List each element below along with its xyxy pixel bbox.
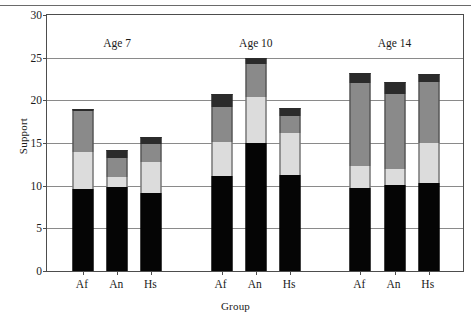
- plot-area: 051015202530Age 7Age 10Age 14: [46, 14, 464, 272]
- y-axis-tick-label: 0: [36, 265, 42, 277]
- x-axis-category-label: Af: [215, 278, 227, 290]
- x-axis-tick-mark: [117, 271, 118, 275]
- bar-segment-segment-4: [107, 150, 128, 158]
- bar-segment-segment-3: [384, 94, 405, 169]
- x-axis-tick-mark: [151, 271, 152, 275]
- y-axis-tick-mark: [43, 143, 47, 144]
- bar-segment-segment-3: [418, 82, 439, 143]
- bar-segment-segment-3: [350, 83, 371, 166]
- bar-an-4[interactable]: [245, 58, 266, 271]
- y-axis-tick-label: 30: [31, 9, 43, 21]
- bar-segment-segment-1: [107, 187, 128, 271]
- chart-figure: Support Group 051015202530Age 7Age 10Age…: [0, 0, 471, 320]
- bar-segment-segment-2: [350, 166, 371, 188]
- bar-segment-segment-2: [280, 133, 301, 176]
- bar-segment-segment-1: [418, 183, 439, 271]
- bar-hs-2[interactable]: [141, 137, 162, 271]
- x-axis-tick-mark: [360, 271, 361, 275]
- bar-segment-segment-3: [245, 64, 266, 97]
- group-title-age-10: Age 10: [239, 37, 273, 49]
- bar-af-6[interactable]: [350, 73, 371, 271]
- y-axis-tick-mark: [43, 100, 47, 101]
- y-axis-tick-mark: [43, 15, 47, 16]
- bar-segment-segment-1: [384, 185, 405, 271]
- bar-segment-segment-3: [141, 144, 162, 162]
- bar-segment-segment-4: [418, 74, 439, 83]
- bar-an-7[interactable]: [384, 82, 405, 271]
- bar-an-1[interactable]: [107, 150, 128, 271]
- bar-segment-segment-2: [72, 152, 93, 190]
- bar-segment-segment-2: [245, 97, 266, 143]
- bar-segment-segment-1: [72, 189, 93, 271]
- bar-segment-segment-2: [141, 162, 162, 193]
- group-title-age-14: Age 14: [378, 37, 412, 49]
- bar-segment-segment-3: [72, 111, 93, 151]
- bar-segment-segment-2: [384, 169, 405, 185]
- bar-segment-segment-1: [280, 175, 301, 271]
- bar-af-3[interactable]: [211, 94, 232, 271]
- y-axis-tick-mark: [43, 186, 47, 187]
- x-axis-category-label: An: [109, 278, 123, 290]
- x-axis-tick-mark: [83, 271, 84, 275]
- bar-segment-segment-1: [141, 193, 162, 272]
- bar-segment-segment-4: [350, 73, 371, 83]
- bar-segment-segment-4: [141, 137, 162, 144]
- group-title-age-7: Age 7: [103, 37, 131, 49]
- x-axis-category-label: Af: [76, 278, 88, 290]
- x-axis-category-label: Af: [353, 278, 365, 290]
- bar-segment-segment-3: [211, 107, 232, 142]
- y-axis-tick-mark: [43, 58, 47, 59]
- y-axis-tick-label: 20: [31, 94, 43, 106]
- y-axis-tick-label: 25: [31, 52, 43, 64]
- bar-segment-segment-4: [211, 94, 232, 108]
- bar-segment-segment-2: [107, 177, 128, 186]
- bar-segment-segment-1: [211, 176, 232, 271]
- x-axis-category-label: An: [386, 278, 400, 290]
- x-axis-category-label: Hs: [283, 278, 296, 290]
- bar-hs-5[interactable]: [280, 108, 301, 271]
- x-axis-category-label: An: [248, 278, 262, 290]
- bar-hs-8[interactable]: [418, 74, 439, 271]
- bar-af-0[interactable]: [72, 109, 93, 271]
- bar-segment-segment-1: [350, 188, 371, 271]
- x-axis-category-label: Hs: [421, 278, 434, 290]
- x-axis-category-label: Hs: [144, 278, 157, 290]
- bar-segment-segment-3: [280, 116, 301, 133]
- x-axis-tick-mark: [290, 271, 291, 275]
- y-axis-title: Support: [17, 91, 29, 181]
- x-axis-tick-mark: [395, 271, 396, 275]
- bar-segment-segment-2: [211, 142, 232, 176]
- y-axis-tick-label: 15: [31, 137, 43, 149]
- y-axis-tick-label: 10: [31, 180, 43, 192]
- x-axis-title: Group: [0, 300, 471, 312]
- bar-segment-segment-4: [384, 82, 405, 94]
- bar-segment-segment-1: [245, 143, 266, 271]
- x-axis-tick-mark: [256, 271, 257, 275]
- bar-segment-segment-2: [418, 143, 439, 183]
- bar-segment-segment-3: [107, 158, 128, 178]
- y-axis-tick-label: 5: [36, 222, 42, 234]
- y-axis-tick-mark: [43, 228, 47, 229]
- bar-segment-segment-4: [280, 108, 301, 116]
- y-axis-tick-mark: [43, 271, 47, 272]
- top-divider-rule: [0, 5, 471, 6]
- x-axis-tick-mark: [222, 271, 223, 275]
- x-axis-tick-mark: [429, 271, 430, 275]
